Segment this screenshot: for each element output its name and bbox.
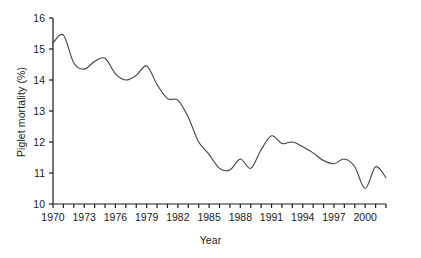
x-tick-label: 1982 (166, 211, 190, 223)
y-tick-label: 14 (33, 74, 45, 86)
chart-figure: 10111213141516 1970197319761979198219851… (0, 0, 421, 258)
line-chart-plot: 10111213141516 1970197319761979198219851… (0, 0, 421, 258)
x-tick-label: 1973 (73, 211, 97, 223)
x-tick-label: 1997 (322, 211, 346, 223)
y-tick-label: 12 (33, 136, 45, 148)
y-tick-label: 11 (34, 167, 45, 179)
y-tick-label: 15 (33, 43, 45, 55)
x-tick-label: 1979 (135, 211, 159, 223)
x-tick-label: 1991 (260, 211, 284, 223)
x-axis-ticks: 1970197319761979198219851988199119941997… (41, 204, 386, 223)
x-tick-label: 1994 (291, 211, 315, 223)
x-tick-label: 2000 (354, 211, 378, 223)
y-tick-label: 16 (33, 12, 45, 24)
y-axis-ticks: 10111213141516 (33, 12, 53, 210)
y-axis-title: Piglet mortality (%) (15, 52, 27, 172)
y-tick-label: 10 (33, 198, 45, 210)
x-tick-label: 1976 (104, 211, 128, 223)
x-tick-label: 1970 (41, 211, 65, 223)
x-tick-label: 1985 (197, 211, 221, 223)
data-series-line (53, 34, 386, 188)
x-axis-title: Year (0, 234, 421, 246)
y-tick-label: 13 (33, 105, 45, 117)
x-tick-label: 1988 (229, 211, 253, 223)
axis-lines (53, 18, 386, 204)
